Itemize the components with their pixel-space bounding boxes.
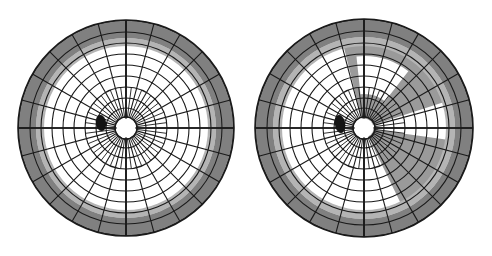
- disc-contents: [18, 20, 234, 236]
- perimetry-figure: [0, 0, 492, 256]
- left-eye-visual-field: [18, 20, 234, 236]
- right-eye-visual-field: [255, 19, 473, 237]
- fixation-center: [355, 119, 374, 138]
- visual-field-charts-canvas: [0, 0, 492, 256]
- disc-contents: [255, 19, 473, 237]
- fixation-center: [117, 119, 136, 138]
